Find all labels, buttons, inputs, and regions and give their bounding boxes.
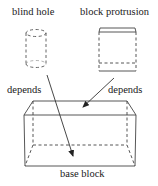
depends-label-right: depends	[108, 85, 142, 96]
block-protrusion-shape	[99, 28, 136, 71]
blind-hole-shape	[26, 30, 46, 68]
base-block-label: base block	[60, 169, 105, 180]
base-block-shape	[24, 101, 136, 166]
depends-label-left: depends	[7, 85, 41, 96]
depends-arrow-blind-hole	[47, 75, 73, 156]
feature-dependency-diagram: blind hole block protrusion depends depe…	[0, 0, 158, 186]
block-protrusion-label: block protrusion	[80, 7, 149, 18]
blind-hole-label: blind hole	[12, 7, 54, 18]
